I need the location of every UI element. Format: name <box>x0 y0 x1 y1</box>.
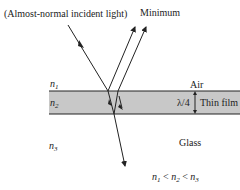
incident-light-label: (Almost-normal incident light) <box>4 9 127 19</box>
ray-diagram-graphic <box>0 0 240 190</box>
reflected-ray-1 <box>108 27 135 91</box>
thickness-label: λ/4 <box>177 98 190 108</box>
index-relation: n1 < n2 < n3 <box>152 172 199 184</box>
n3-label: n3 <box>49 141 58 153</box>
n1-label: n1 <box>50 79 59 91</box>
minimum-label: Minimum <box>140 8 180 18</box>
glass-label: Glass <box>179 138 201 148</box>
incident-ray <box>68 25 108 91</box>
n2-label: n2 <box>50 98 59 110</box>
transmitted-ray <box>114 114 125 166</box>
reflected-ray-2 <box>118 27 146 91</box>
thin-film-label: Thin film <box>200 98 238 108</box>
incident-arrow-icon <box>78 40 84 48</box>
air-label: Air <box>190 80 203 90</box>
thin-film-diagram: (Almost-normal incident light) Minimum n… <box>0 0 240 190</box>
